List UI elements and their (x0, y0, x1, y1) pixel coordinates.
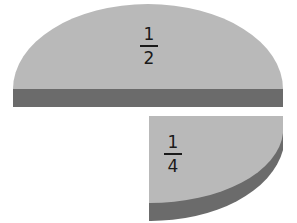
quarter-fraction-label: 1 4 (164, 134, 182, 175)
quarter-numerator: 1 (164, 134, 182, 151)
half-numerator: 1 (140, 26, 158, 43)
quarter-denominator: 4 (164, 158, 182, 175)
half-piece-side (13, 89, 283, 107)
fraction-bar (140, 45, 158, 47)
half-denominator: 2 (140, 50, 158, 67)
half-fraction-label: 1 2 (140, 26, 158, 67)
fraction-bar (164, 153, 182, 155)
